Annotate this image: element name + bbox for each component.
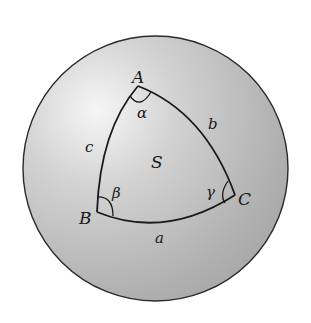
diagram-canvas: A α B β C γ a b c S — [0, 0, 311, 323]
vertex-A-label: A — [130, 67, 144, 87]
angle-gamma-label: γ — [206, 183, 215, 201]
side-b-label: b — [208, 115, 218, 133]
vertex-B-label: B — [78, 208, 92, 228]
side-a-label: a — [155, 229, 164, 247]
angle-beta-label: β — [111, 184, 121, 202]
angle-alpha-label: α — [137, 104, 147, 122]
vertex-C-label: C — [238, 189, 251, 209]
spherical-triangle-diagram: A α B β C γ a b c S — [0, 0, 311, 323]
area-S-label: S — [151, 152, 163, 172]
side-c-label: c — [85, 138, 94, 156]
